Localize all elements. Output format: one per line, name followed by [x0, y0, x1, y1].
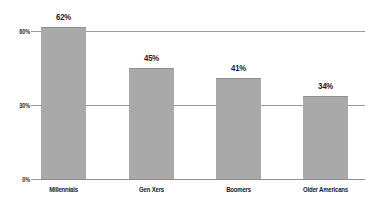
gridline-60: [38, 31, 365, 32]
tick-mark-0: [31, 179, 38, 180]
value-label-boomers: 41%: [218, 62, 260, 73]
bar-older-americans: [303, 96, 348, 179]
category-label-millennials: Millennials: [34, 185, 94, 194]
axis-baseline: [38, 179, 365, 180]
bar-boomers: [216, 78, 261, 179]
plot-area: 60% 30% 0% 62% Millennials 45% Gen Xers …: [0, 0, 368, 205]
tick-mark-60: [31, 31, 38, 32]
bar-millennials: [41, 27, 86, 179]
y-axis-label-60: 60%: [4, 28, 30, 35]
y-axis-label-30: 30%: [4, 102, 30, 109]
bar-gen-xers: [129, 68, 174, 179]
tick-mark-30: [31, 105, 38, 106]
category-label-gen-xers: Gen Xers: [122, 185, 182, 194]
category-label-older-americans: Older Americans: [294, 185, 357, 194]
value-label-millennials: 62%: [43, 11, 85, 22]
value-label-gen-xers: 45%: [131, 52, 173, 63]
value-label-older-americans: 34%: [305, 80, 347, 91]
category-label-boomers: Boomers: [209, 185, 269, 194]
y-axis-label-0: 0%: [4, 176, 30, 183]
bar-chart: 60% 30% 0% 62% Millennials 45% Gen Xers …: [0, 0, 368, 205]
